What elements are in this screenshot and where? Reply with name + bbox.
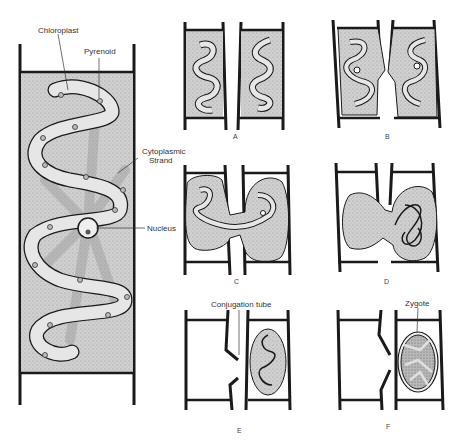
label-cytoplasmic-strand-line1: Cytoplasmic xyxy=(142,147,186,156)
spirogyra-diagram xyxy=(0,0,466,444)
panel-a xyxy=(185,22,283,130)
label-nucleus: Nucleus xyxy=(147,224,176,233)
main-cell xyxy=(20,34,145,405)
label-pyrenoid: Pyrenoid xyxy=(84,47,116,56)
panel-label-b: B xyxy=(385,133,390,140)
label-chloroplast: Chloroplast xyxy=(38,26,78,35)
label-zygote: Zygote xyxy=(405,299,429,308)
label-cytoplasmic-strand-line2: Strand xyxy=(149,156,173,165)
panel-c xyxy=(185,165,290,275)
label-conjugation-tube: Conjugation tube xyxy=(211,300,272,309)
panel-label-f: F xyxy=(386,423,390,430)
panel-e xyxy=(186,310,290,410)
nucleus xyxy=(78,218,98,238)
panel-label-a: A xyxy=(233,133,238,140)
panel-label-c: C xyxy=(234,278,239,285)
panel-label-e: E xyxy=(237,427,242,434)
panel-f xyxy=(338,308,443,410)
panel-d xyxy=(336,163,438,272)
panel-label-d: D xyxy=(384,278,389,285)
panel-b xyxy=(333,20,440,128)
